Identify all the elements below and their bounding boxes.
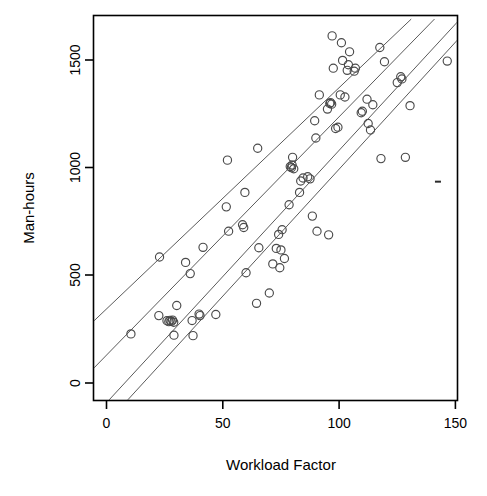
data-point [329,64,337,72]
data-point [336,91,344,99]
data-point [341,93,349,101]
y-tick-label-1000: 1000 [67,152,83,183]
data-point [127,330,135,338]
data-point [406,102,414,110]
data-point [288,153,296,161]
data-point [186,270,194,278]
data-point [212,310,220,318]
data-point [334,123,342,131]
y-tick-label-500: 500 [67,263,83,287]
data-point [240,223,248,231]
y-tick-label-1500: 1500 [67,44,83,75]
data-point [155,253,163,261]
x-axis-ticks [107,400,456,409]
data-point [223,156,231,164]
data-point [311,117,319,125]
data-point [181,258,189,266]
data-point [401,153,409,161]
y-axis-tick-labels: 1500 1000 500 0 [67,44,83,387]
data-point [188,316,196,324]
plot-canvas: 1500 1000 500 0 Man-hours 0 50 100 150 W… [0,0,487,496]
data-point [199,243,207,251]
data-points-group [127,32,452,340]
data-point [313,227,321,235]
scatter-plot-figure: 1500 1000 500 0 Man-hours 0 50 100 150 W… [0,0,487,496]
data-point [351,64,359,72]
data-point [276,264,284,272]
data-point [170,331,178,339]
data-point [280,254,288,262]
x-tick-label-100: 100 [327,415,351,431]
y-axis-ticks [85,60,94,383]
data-point [222,203,230,211]
data-point [277,246,285,254]
data-point [252,299,260,307]
data-point [189,332,197,340]
x-tick-label-0: 0 [103,415,111,431]
data-point [337,39,345,47]
regression-lines-group [90,19,471,400]
data-point [241,188,249,196]
stray-mark [435,181,441,183]
y-tick-label-0: 0 [67,379,83,387]
data-point [443,57,451,65]
data-point [272,244,280,252]
fit-line-4 [127,24,471,400]
data-point [315,91,323,99]
y-axis-title: Man-hours [20,172,37,244]
stray-mark-group [435,181,441,183]
data-point [225,227,233,235]
x-axis-tick-labels: 0 50 100 150 [103,415,468,431]
fit-line-1 [90,19,411,324]
data-point [255,244,263,252]
data-point [380,58,388,66]
data-point [254,144,262,152]
data-point [173,301,181,309]
fit-line-3 [109,19,460,400]
data-point [325,231,333,239]
data-point [304,173,312,181]
data-point [345,48,353,56]
data-point [295,188,303,196]
x-tick-label-50: 50 [215,415,231,431]
data-point [377,155,385,163]
fit-line-2 [90,19,434,372]
x-axis-title: Workload Factor [226,456,336,473]
data-point [308,212,316,220]
data-point [376,43,384,51]
data-point [242,269,250,277]
data-point [338,56,346,64]
data-point [155,312,163,320]
data-point [265,289,273,297]
data-point [328,32,336,40]
x-tick-label-150: 150 [444,415,468,431]
data-point [369,101,377,109]
